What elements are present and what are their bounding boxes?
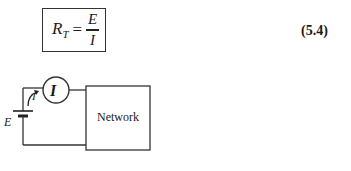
current-label: I	[32, 90, 36, 102]
network-label: Network	[86, 110, 150, 125]
source-label: E	[4, 115, 11, 130]
ammeter-label: I	[50, 82, 56, 100]
